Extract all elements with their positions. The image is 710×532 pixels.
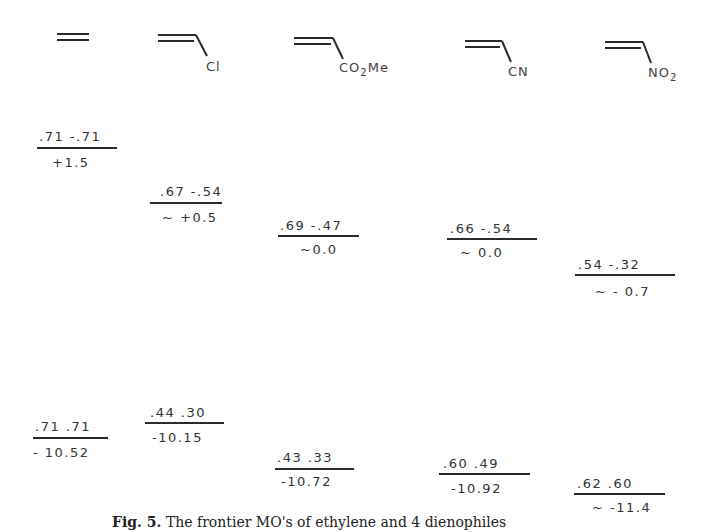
homo-energy: -10.92 (451, 482, 502, 495)
nitroethylene-structure-icon (605, 42, 651, 63)
lumo-coefficients: .66 -.54 (450, 222, 512, 235)
energy-level-line (33, 437, 108, 439)
lumo-energy: ~ 0.0 (460, 246, 503, 259)
substituent-text: CO (339, 60, 360, 75)
homo-energy: - 10.52 (33, 446, 90, 459)
figure-label: Fig. 5. (112, 514, 161, 530)
substituent-text-after: Me (368, 60, 389, 75)
homo-coefficients: .62 .60 (577, 477, 633, 490)
substituent-subscript: 2 (670, 72, 677, 83)
figure-caption-text: The frontier MO's of ethylene and 4 dien… (166, 514, 506, 530)
lumo-energy: +1.5 (52, 156, 90, 169)
substituent-label-co2me: CO2Me (339, 61, 389, 78)
vinyl-chloride-structure-icon (158, 35, 207, 56)
homo-coefficients: .71 .71 (35, 420, 91, 433)
substituent-label-no2: NO2 (648, 66, 677, 83)
energy-level-line (37, 147, 117, 149)
energy-level-line (575, 274, 675, 276)
substituent-text: NO (648, 65, 670, 80)
substituent-label-cl: Cl (206, 60, 221, 73)
lumo-energy: ~ - 0.7 (595, 285, 650, 298)
homo-coefficients: .60 .49 (443, 457, 499, 470)
energy-level-line (278, 235, 359, 237)
lumo-coefficients: .71 -.71 (39, 130, 101, 143)
lumo-energy: ~0.0 (300, 243, 338, 256)
substituent-text: Cl (206, 59, 221, 74)
homo-coefficients: .43 .33 (277, 451, 333, 464)
lumo-energy: ~ +0.5 (162, 211, 218, 224)
lumo-coefficients: .69 -.47 (280, 219, 342, 232)
homo-energy: -10.72 (281, 475, 332, 488)
energy-level-line (439, 473, 530, 475)
homo-coefficients: .44 .30 (150, 406, 206, 419)
energy-level-line (145, 422, 224, 424)
homo-energy: ~ -11.4 (592, 501, 651, 514)
acrylonitrile-structure-icon (465, 41, 511, 62)
figure-caption: Fig. 5. The frontier MO's of ethylene an… (112, 514, 506, 530)
ethylene-structure-icon (57, 34, 89, 40)
homo-energy: -10.15 (152, 431, 203, 444)
energy-level-line (574, 493, 665, 495)
structures-row (0, 0, 710, 100)
substituent-subscript: 2 (360, 67, 367, 78)
energy-level-line (150, 202, 222, 204)
methyl-acrylate-structure-icon (294, 38, 343, 59)
substituent-label-cn: CN (508, 65, 529, 78)
substituent-text: CN (508, 64, 529, 79)
lumo-coefficients: .54 -.32 (578, 258, 640, 271)
energy-level-line (275, 468, 354, 470)
lumo-coefficients: .67 -.54 (160, 185, 222, 198)
energy-level-line (447, 238, 537, 240)
